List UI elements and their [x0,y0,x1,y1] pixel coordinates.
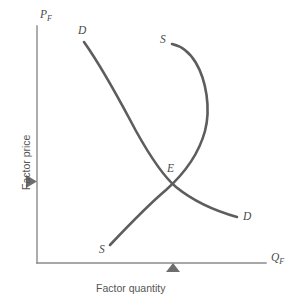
y-axis-subscript: F [47,14,52,23]
x-axis-subscript: F [279,257,284,266]
supply-curve-bottom-label: S [99,244,105,256]
demand-curve [84,42,237,217]
y-axis-title: Factor price [21,135,32,190]
y-axis-symbol-label: PF [40,9,52,23]
equilibrium-point-label: E [167,163,174,175]
y-axis-symbol: P [40,8,47,20]
supply-curve-top-label: S [160,34,166,46]
demand-curve-end-label: D [243,211,251,223]
x-axis-symbol-label: QF [271,252,284,266]
supply-curve [110,44,208,245]
x-axis-title: Factor quantity [96,283,165,294]
factor-market-diagram: PF QF Factor price Factor quantity D D S… [0,0,296,304]
equilibrium-quantity-marker [166,263,180,272]
diagram-canvas [0,0,296,304]
demand-curve-top-label: D [78,25,86,37]
